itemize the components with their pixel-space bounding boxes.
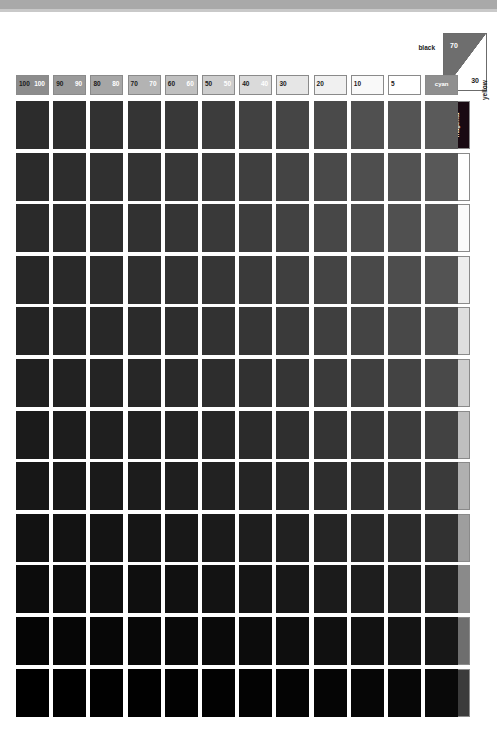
column-header-cyan: cyan xyxy=(425,75,458,95)
color-patch xyxy=(239,565,272,613)
color-patch xyxy=(202,153,235,201)
color-patch xyxy=(239,204,272,252)
color-patch xyxy=(53,514,86,562)
color-patch xyxy=(165,514,198,562)
color-patch xyxy=(314,411,347,459)
color-patch xyxy=(351,617,384,665)
color-patch xyxy=(351,307,384,355)
column-header-label-secondary: 90 xyxy=(75,80,82,88)
color-patch xyxy=(165,617,198,665)
column-header-label-primary: 10 xyxy=(354,80,361,88)
column-header-label-secondary: 100 xyxy=(34,80,45,88)
column-header-label-primary: 60 xyxy=(168,80,175,88)
color-patch xyxy=(425,617,458,665)
color-patch xyxy=(202,617,235,665)
color-patch xyxy=(314,359,347,407)
color-patch xyxy=(425,256,458,304)
color-patch xyxy=(276,669,309,717)
color-patch xyxy=(16,565,49,613)
color-patch xyxy=(388,565,421,613)
color-patch xyxy=(202,101,235,149)
color-patch xyxy=(276,565,309,613)
column-header-20: 20 xyxy=(314,75,347,95)
color-patch xyxy=(165,101,198,149)
color-patch xyxy=(351,565,384,613)
color-patch xyxy=(351,514,384,562)
color-patch xyxy=(239,256,272,304)
color-patch xyxy=(202,307,235,355)
color-patch xyxy=(53,669,86,717)
color-patch xyxy=(314,153,347,201)
column-header-60: 6060 xyxy=(165,75,198,95)
color-test-target-page: black 70 30 yellow 100100909080807070606… xyxy=(0,0,497,732)
column-header-label-secondary: 40 xyxy=(261,80,268,88)
color-patch xyxy=(314,307,347,355)
column-header-5: 5 xyxy=(388,75,421,95)
color-patch xyxy=(351,669,384,717)
color-patch xyxy=(239,462,272,510)
color-patch xyxy=(16,153,49,201)
color-patch xyxy=(165,565,198,613)
color-patch xyxy=(16,359,49,407)
color-patch xyxy=(314,462,347,510)
color-patch xyxy=(90,101,123,149)
color-patch xyxy=(314,514,347,562)
color-patch xyxy=(314,617,347,665)
color-patch xyxy=(128,204,161,252)
color-patch xyxy=(388,359,421,407)
color-patch xyxy=(16,669,49,717)
color-patch xyxy=(16,617,49,665)
color-patch xyxy=(239,411,272,459)
color-patch xyxy=(90,565,123,613)
color-patch xyxy=(239,359,272,407)
color-patch xyxy=(90,153,123,201)
color-patch xyxy=(425,411,458,459)
color-patch xyxy=(239,307,272,355)
color-patch xyxy=(202,669,235,717)
patch-grid xyxy=(16,101,460,723)
color-patch xyxy=(276,153,309,201)
color-patch xyxy=(351,359,384,407)
color-patch xyxy=(276,307,309,355)
color-patch xyxy=(388,462,421,510)
color-patch xyxy=(202,565,235,613)
color-patch xyxy=(128,359,161,407)
black-label: black xyxy=(418,44,435,51)
color-patch xyxy=(425,359,458,407)
color-patch xyxy=(425,101,458,149)
color-patch xyxy=(128,669,161,717)
color-patch xyxy=(16,204,49,252)
color-patch xyxy=(16,307,49,355)
color-patch xyxy=(202,514,235,562)
color-patch xyxy=(202,204,235,252)
color-patch xyxy=(425,307,458,355)
color-patch xyxy=(53,204,86,252)
color-patch xyxy=(388,411,421,459)
color-patch xyxy=(239,153,272,201)
color-patch xyxy=(90,617,123,665)
color-patch xyxy=(425,204,458,252)
column-header-label-primary: 70 xyxy=(131,80,138,88)
color-patch xyxy=(276,204,309,252)
color-patch xyxy=(128,153,161,201)
color-patch xyxy=(425,153,458,201)
color-patch xyxy=(53,256,86,304)
column-header-label-primary: 20 xyxy=(317,80,324,88)
color-patch xyxy=(128,101,161,149)
color-patch xyxy=(276,617,309,665)
color-patch xyxy=(314,669,347,717)
column-header-10: 10 xyxy=(351,75,384,95)
color-patch xyxy=(53,153,86,201)
color-patch xyxy=(16,514,49,562)
color-patch xyxy=(276,359,309,407)
color-patch xyxy=(351,411,384,459)
color-patch xyxy=(351,204,384,252)
color-patch xyxy=(16,101,49,149)
column-header-90: 9090 xyxy=(53,75,86,95)
color-patch xyxy=(128,256,161,304)
column-header-80: 8080 xyxy=(90,75,123,95)
color-patch xyxy=(53,617,86,665)
color-patch xyxy=(16,462,49,510)
color-patch xyxy=(165,669,198,717)
column-header-label-secondary: 60 xyxy=(187,80,194,88)
